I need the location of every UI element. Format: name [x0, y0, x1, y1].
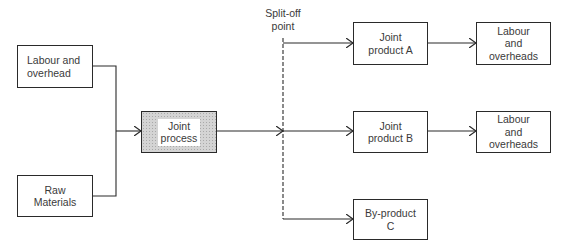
labour-overheads-a-label: Labour and overheads: [489, 25, 538, 63]
labour-overhead-box: Labour and overhead: [17, 45, 93, 88]
by-product-c-label: By-product C: [365, 207, 416, 232]
joint-process-label: Joint process: [158, 119, 201, 146]
labour-overhead-label: Labour and overhead: [27, 54, 80, 79]
labour-overheads-b-box: Labour and overheads: [476, 111, 551, 153]
split-off-point-label: Split-off point: [255, 7, 311, 32]
by-product-c-box: By-product C: [353, 199, 428, 240]
joint-product-a-label: Joint product A: [368, 31, 412, 56]
labour-overheads-a-box: Labour and overheads: [476, 22, 551, 65]
labour-overheads-b-label: Labour and overheads: [489, 113, 538, 151]
joint-product-b-box: Joint product B: [353, 111, 428, 153]
joint-product-b-label: Joint product B: [368, 120, 413, 145]
joint-product-a-box: Joint product A: [353, 22, 428, 65]
connector-labour-overhead: [92, 66, 116, 196]
raw-materials-label: Raw Materials: [34, 184, 77, 209]
joint-process-box: Joint process: [141, 111, 217, 153]
raw-materials-box: Raw Materials: [17, 175, 93, 217]
